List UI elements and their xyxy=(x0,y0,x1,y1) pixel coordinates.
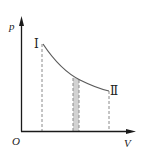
x-axis-label: V xyxy=(124,137,132,149)
shaded-strip xyxy=(73,78,79,132)
state-1-label: Ⅰ xyxy=(34,37,39,51)
state-2-label: Ⅱ xyxy=(110,84,118,98)
pv-diagram: p V O Ⅰ Ⅱ xyxy=(0,0,153,157)
origin-label: O xyxy=(12,135,20,147)
x-axis-arrow-icon xyxy=(126,129,136,134)
y-axis-label: p xyxy=(8,20,15,32)
y-axis-arrow-icon xyxy=(19,16,24,26)
